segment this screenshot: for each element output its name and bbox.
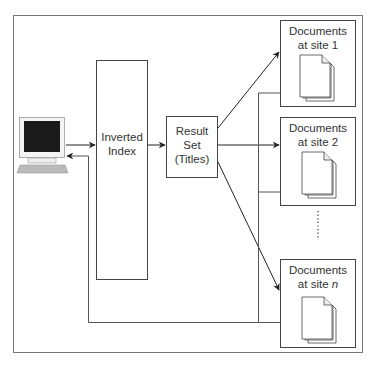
- site-n-prefix: at site: [298, 278, 332, 290]
- site-1-prefix: at site: [298, 39, 332, 51]
- result-set-line2: Set: [166, 138, 218, 152]
- sites-collector-line: [259, 93, 281, 322]
- result-set-line3: (Titles): [166, 152, 218, 166]
- site-1-line1: Documents: [280, 24, 356, 38]
- document-stack-icon: [302, 152, 336, 198]
- inverted-index-line1: Inverted: [96, 130, 148, 144]
- inverted-index-line2: Index: [96, 144, 148, 158]
- site-n-title: Documents at site n: [280, 263, 356, 291]
- site-n-number: n: [332, 278, 338, 290]
- site-2-line1: Documents: [280, 121, 356, 135]
- site-1-title: Documents at site 1: [280, 24, 356, 52]
- document-stack-icon: [302, 297, 336, 343]
- site-1-number: 1: [332, 39, 338, 51]
- document-stack-icon: [300, 55, 334, 101]
- result-set-line1: Result: [166, 124, 218, 138]
- edge-results-to-site-n: [218, 162, 279, 290]
- inverted-index-box: [97, 61, 148, 280]
- inverted-index-label: Inverted Index: [96, 130, 148, 158]
- diagram-canvas: [0, 0, 372, 365]
- site-2-title: Documents at site 2: [280, 121, 356, 149]
- edge-results-to-site-1: [218, 52, 279, 128]
- site-2-prefix: at site: [298, 136, 332, 148]
- computer-terminal-icon: [17, 118, 68, 174]
- site-2-number: 2: [332, 136, 338, 148]
- result-set-label: Result Set (Titles): [166, 124, 218, 166]
- site-n-line1: Documents: [280, 263, 356, 277]
